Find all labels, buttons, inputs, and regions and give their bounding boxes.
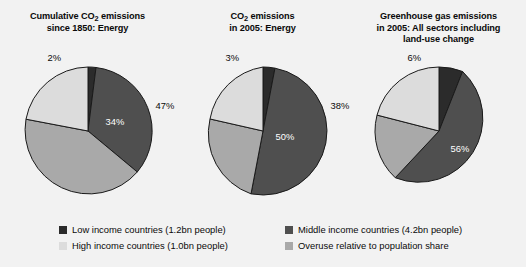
chart-title-line-1: Cumulative CO2 emissions bbox=[30, 11, 145, 21]
chart-title-line-3: land-use change bbox=[403, 34, 474, 44]
pct-label-low-income: 6% bbox=[408, 52, 422, 63]
legend-column-right: Middle income countries (4.2bn people) O… bbox=[285, 222, 462, 254]
legend-label-high-income: High income countries (1.0bn people) bbox=[72, 240, 228, 251]
legend-item-overuse: Overuse relative to population share bbox=[285, 238, 462, 253]
chart-panel-co2-2005: CO2 emissions in 2005: Energy 3% 50% 47% bbox=[175, 0, 350, 218]
legend-label-middle-income: Middle income countries (4.2bn people) bbox=[298, 224, 462, 235]
legend-swatch-middle-income-icon bbox=[285, 226, 293, 234]
chart-title-line-1: CO2 emissions bbox=[230, 11, 294, 21]
chart-title: Greenhouse gas emissions in 2005: All se… bbox=[351, 11, 526, 46]
pct-label-low-income: 3% bbox=[226, 52, 240, 63]
legend-label-overuse: Overuse relative to population share bbox=[298, 240, 449, 251]
legend-item-high-income: High income countries (1.0bn people) bbox=[59, 238, 228, 253]
chart-title: CO2 emissions in 2005: Energy bbox=[175, 11, 350, 34]
pct-label-middle-income: 50% bbox=[276, 131, 295, 142]
pie-svg-3 bbox=[374, 66, 504, 196]
chart-panel-ghg-2005: Greenhouse gas emissions in 2005: All se… bbox=[351, 0, 526, 218]
legend: Low income countries (1.2bn people) High… bbox=[0, 222, 526, 267]
pct-label-middle-income: 34% bbox=[106, 116, 125, 127]
pct-label-middle-income: 56% bbox=[451, 143, 470, 154]
chart-title-line-2: in 2005: All sectors including bbox=[377, 23, 501, 33]
pie-chart-1: 2% 34% 64% bbox=[23, 66, 153, 196]
legend-swatch-overuse-icon bbox=[285, 242, 293, 250]
pct-label-high-income: 38% bbox=[331, 100, 350, 111]
legend-label-low-income: Low income countries (1.2bn people) bbox=[72, 224, 226, 235]
chart-panel-cumulative-co2: Cumulative CO2 emissions since 1850: Ene… bbox=[0, 0, 175, 218]
pie-chart-2: 3% 50% 47% bbox=[198, 66, 328, 196]
chart-title-line-1: Greenhouse gas emissions bbox=[380, 11, 497, 21]
pct-label-low-income: 2% bbox=[48, 52, 62, 63]
subscript-2: 2 bbox=[244, 14, 248, 23]
pie-chart-3: 6% 56% 38% bbox=[374, 66, 504, 196]
pie-chart-figure: Cumulative CO2 emissions since 1850: Ene… bbox=[0, 0, 526, 267]
chart-title-line-2: in 2005: Energy bbox=[229, 23, 295, 33]
chart-title: Cumulative CO2 emissions since 1850: Ene… bbox=[0, 11, 175, 34]
legend-swatch-low-income-icon bbox=[59, 226, 67, 234]
pie-svg-2 bbox=[198, 66, 328, 196]
subscript-2: 2 bbox=[95, 14, 99, 23]
pie-svg-1 bbox=[23, 66, 153, 196]
slice-high-income bbox=[25, 67, 87, 131]
legend-item-middle-income: Middle income countries (4.2bn people) bbox=[285, 222, 462, 237]
pct-label-high-income: 47% bbox=[156, 100, 175, 111]
legend-column-left: Low income countries (1.2bn people) High… bbox=[59, 222, 228, 254]
legend-swatch-high-income-icon bbox=[59, 242, 67, 250]
chart-title-line-2: since 1850: Energy bbox=[47, 23, 128, 33]
legend-item-low-income: Low income countries (1.2bn people) bbox=[59, 222, 228, 237]
